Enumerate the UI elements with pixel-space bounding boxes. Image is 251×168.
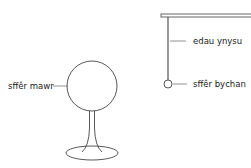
large-sphere-label: sffêr mawr [8,81,54,91]
stand-base [66,146,118,160]
small-sphere-label: sffêr bychan [193,79,246,89]
large-sphere [67,61,117,111]
small-sphere [164,80,172,88]
support-bar [161,14,251,17]
insulating-thread-label: edau ynysu [193,36,242,46]
